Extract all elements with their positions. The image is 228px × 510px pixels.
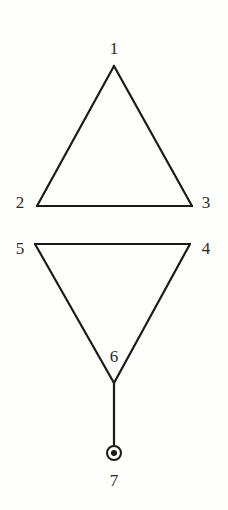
edge-5-6 — [35, 244, 114, 383]
edge-1-2 — [37, 66, 114, 206]
node-label-3: 3 — [202, 193, 211, 212]
edge-4-6 — [114, 244, 190, 383]
edge-1-3 — [114, 66, 192, 206]
graph-diagram: 1 2 3 5 4 6 7 — [0, 0, 228, 510]
node-label-6: 6 — [110, 347, 119, 366]
node-label-4: 4 — [202, 239, 211, 258]
node-label-7: 7 — [110, 471, 119, 490]
circled-dot-icon — [107, 446, 121, 460]
upper-triangle — [37, 66, 192, 206]
node-label-2: 2 — [16, 193, 25, 212]
node-label-1: 1 — [110, 39, 119, 58]
node-label-5: 5 — [16, 239, 25, 258]
